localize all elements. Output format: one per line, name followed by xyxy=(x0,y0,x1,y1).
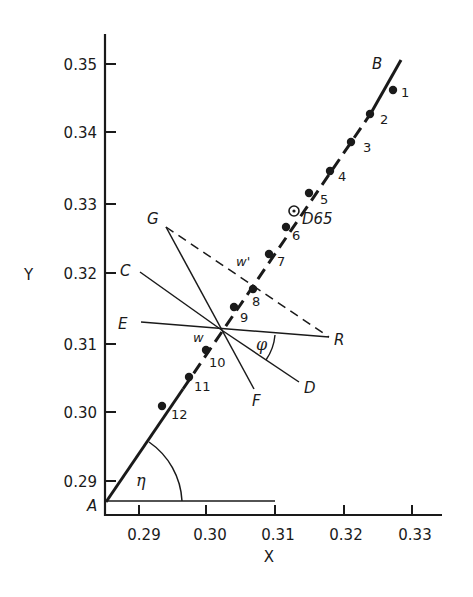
y-tick-label: 0.30 xyxy=(64,404,97,422)
y-tick-labels: 0.35 0.34 0.33 0.32 0.31 0.30 0.29 xyxy=(64,56,97,491)
d65-center-dot xyxy=(292,209,295,212)
point-label-6: 6 xyxy=(292,228,300,243)
point-5 xyxy=(305,189,313,197)
y-tick-label: 0.34 xyxy=(64,124,97,142)
point-label-3: 3 xyxy=(363,140,371,155)
point-4 xyxy=(326,167,334,175)
d65-label: D65 xyxy=(302,210,333,228)
d65-marker xyxy=(289,206,299,216)
data-points xyxy=(158,86,397,410)
y-tick-label: 0.29 xyxy=(64,473,97,491)
eta-construction xyxy=(106,442,275,501)
point-6 xyxy=(282,223,290,231)
line-C-to-w xyxy=(140,272,223,331)
point-9 xyxy=(230,303,238,311)
point-label-7: 7 xyxy=(277,254,285,269)
label-G: G xyxy=(147,210,159,228)
point-label-12: 12 xyxy=(171,407,188,422)
label-F: F xyxy=(252,392,261,410)
point-label-8: 8 xyxy=(252,294,260,309)
locus-end-label-B: B xyxy=(372,55,382,73)
locus-line xyxy=(106,60,401,502)
locus-start-label-A: A xyxy=(86,497,97,515)
axes xyxy=(104,34,442,516)
x-tick-label: 0.33 xyxy=(398,526,431,544)
y-tick-label: 0.35 xyxy=(64,56,97,74)
point-label-1: 1 xyxy=(401,85,409,100)
point-2 xyxy=(366,110,374,118)
point-label-9: 9 xyxy=(240,310,248,325)
eta-angle-arc xyxy=(149,442,182,501)
eta-label: η xyxy=(136,471,146,490)
y-tick-label: 0.33 xyxy=(64,196,97,214)
x-tick-label: 0.29 xyxy=(127,526,160,544)
label-D: D xyxy=(304,379,316,397)
phi-label: φ xyxy=(256,335,268,354)
point-11 xyxy=(185,373,193,381)
point-8 xyxy=(249,285,257,293)
chromaticity-diagram: 0.35 0.34 0.33 0.32 0.31 0.30 0.29 Y 0.2… xyxy=(0,0,473,597)
point-1 xyxy=(389,86,397,94)
x-tick-label: 0.31 xyxy=(261,526,294,544)
x-tick-labels: 0.29 0.30 0.31 0.32 0.33 xyxy=(127,526,431,544)
point-label-10: 10 xyxy=(209,355,226,370)
x-axis-title: X xyxy=(264,548,274,566)
x-tick-label: 0.32 xyxy=(329,526,362,544)
y-axis-title: Y xyxy=(23,266,34,284)
phi-angle-arc xyxy=(266,335,275,360)
point-10 xyxy=(202,346,210,354)
label-E: E xyxy=(118,315,128,333)
label-w: w xyxy=(193,330,204,345)
point-labels: 1 2 3 4 5 6 7 8 9 10 11 12 xyxy=(171,85,409,422)
x-tick-label: 0.30 xyxy=(193,526,226,544)
label-w-prime: w' xyxy=(236,254,250,269)
point-12 xyxy=(158,402,166,410)
point-label-2: 2 xyxy=(380,112,388,127)
point-label-11: 11 xyxy=(194,379,211,394)
point-3 xyxy=(347,138,355,146)
point-7 xyxy=(265,250,273,258)
label-R: R xyxy=(334,331,344,349)
point-label-5: 5 xyxy=(320,192,328,207)
line-E-to-R xyxy=(141,322,329,337)
y-tick-label: 0.31 xyxy=(64,336,97,354)
y-tick-label: 0.32 xyxy=(64,265,97,283)
label-C: C xyxy=(120,262,131,280)
point-label-4: 4 xyxy=(338,169,346,184)
